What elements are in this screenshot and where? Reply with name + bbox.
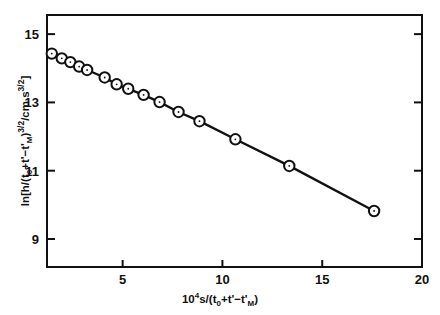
data-point-center-dot — [143, 94, 145, 96]
x-tick-label-5: 5 — [119, 272, 126, 287]
data-point-center-dot — [51, 53, 53, 55]
plot-canvas: 5101520 9111315 104s/(t0+t'−t'M) ln[h/(t… — [0, 0, 440, 315]
xlabel-lead: 10 — [182, 293, 195, 305]
data-point-center-dot — [61, 57, 63, 59]
xlabel-close-paren: ) — [254, 293, 258, 305]
data-point-center-dot — [78, 66, 80, 68]
data-point-center-dot — [159, 101, 161, 103]
data-point-center-dot — [116, 83, 118, 85]
data-point-center-dot — [127, 88, 129, 90]
x-tick-label-15: 15 — [315, 272, 329, 287]
ylabel-ln: ln — [19, 196, 31, 206]
x-tick-label-20: 20 — [415, 272, 429, 287]
data-point-center-dot — [86, 69, 88, 71]
y-tick-label-15: 15 — [25, 27, 39, 42]
ylabel-h: h — [19, 185, 31, 192]
y-tick-label-9: 9 — [32, 232, 39, 247]
x-axis-tick-labels: 5101520 — [119, 272, 429, 287]
ylabel-exponent: 3/2 — [16, 121, 26, 133]
data-point-center-dot — [199, 120, 201, 122]
ylabel-bracket-close: ] — [19, 76, 31, 80]
x-axis-ticks — [123, 260, 323, 267]
data-point-center-dot — [104, 77, 106, 79]
data-point-center-dot — [69, 61, 71, 63]
data-point-center-dot — [373, 210, 375, 212]
ylabel-units: cm s — [19, 91, 31, 117]
svg-text:104s/(t0+t'−t'M): 104s/(t0+t'−t'M) — [182, 291, 258, 308]
data-point-center-dot — [178, 111, 180, 113]
ylabel-units-exponent: 3/2 — [16, 79, 26, 91]
x-axis-title: 104s/(t0+t'−t'M) — [182, 291, 258, 308]
scatter-plot-figure: 5101520 9111315 104s/(t0+t'−t'M) ln[h/(t… — [0, 0, 440, 315]
data-point-center-dot — [288, 165, 290, 167]
x-tick-label-10: 10 — [215, 272, 229, 287]
data-point-center-dot — [234, 138, 236, 140]
